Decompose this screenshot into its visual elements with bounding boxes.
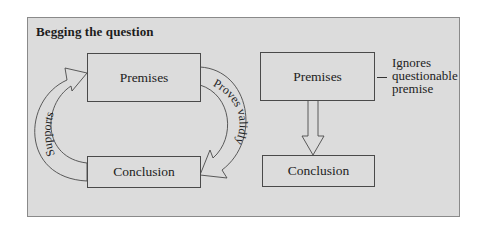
left-premises-box: Premises [87,53,201,102]
down-arrow [302,100,324,155]
left-conclusion-label: Conclusion [113,164,175,180]
annotation-line: premise [392,82,458,95]
annotation-text: Ignores questionable premise [392,56,458,95]
right-premises-box: Premises [260,52,375,101]
right-conclusion-box: Conclusion [262,155,375,187]
arrows-layer: Proves validly Supports [0,0,484,232]
annotation-dash [377,77,387,78]
left-premises-label: Premises [120,70,169,86]
left-conclusion-box: Conclusion [87,156,201,188]
right-premises-label: Premises [293,69,342,85]
right-conclusion-label: Conclusion [288,163,350,179]
